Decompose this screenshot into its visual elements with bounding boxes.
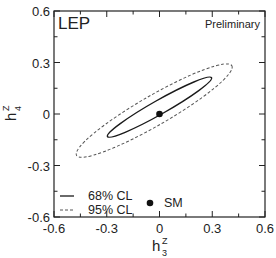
x-tick-label: 0.3 bbox=[203, 221, 221, 236]
x-tick-label: -0.3 bbox=[96, 221, 118, 236]
contour-68cl bbox=[104, 72, 215, 143]
svg-text:3: 3 bbox=[162, 248, 167, 258]
data-points bbox=[156, 111, 163, 118]
svg-text:4: 4 bbox=[13, 106, 23, 111]
chart-svg: -0.6-0.300.30.6 -0.6-0.300.30.6 LEP Prel… bbox=[0, 0, 276, 258]
y-tick-label: -0.3 bbox=[28, 159, 50, 174]
status-label: Preliminary bbox=[205, 18, 261, 30]
legend-label-95: 95% CL bbox=[88, 203, 133, 217]
x-tick-labels: -0.6-0.300.30.6 bbox=[43, 221, 274, 236]
y-tick-label: 0 bbox=[43, 107, 50, 122]
svg-text:h: h bbox=[152, 237, 160, 254]
legend-label-68: 68% CL bbox=[88, 189, 133, 203]
svg-text:h: h bbox=[2, 113, 19, 121]
legend-label-sm: SM bbox=[164, 196, 183, 210]
contour-95cl bbox=[69, 53, 239, 169]
y-tick-labels: -0.6-0.300.30.6 bbox=[28, 4, 50, 225]
y-tick-label: 0.3 bbox=[32, 56, 50, 71]
x-tick-label: 0 bbox=[156, 221, 163, 236]
y-tick-label: 0.6 bbox=[32, 4, 50, 19]
y-axis-label: h Z 4 bbox=[1, 105, 23, 121]
experiment-label: LEP bbox=[58, 14, 90, 33]
legend-sm-marker bbox=[147, 200, 154, 207]
y-tick-label: -0.6 bbox=[28, 210, 50, 225]
svg-text:Z: Z bbox=[1, 105, 11, 111]
legend: 68% CL 95% CL SM bbox=[60, 189, 183, 217]
x-tick-label: 0.6 bbox=[256, 221, 274, 236]
sm-point bbox=[156, 111, 163, 118]
x-axis-label: h Z 3 bbox=[152, 236, 168, 258]
confidence-contours bbox=[69, 53, 239, 169]
svg-text:Z: Z bbox=[162, 236, 168, 246]
